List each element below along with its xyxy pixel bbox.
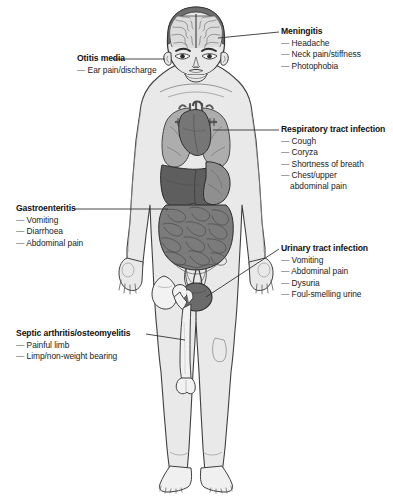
dash-glyph: — <box>281 255 289 265</box>
symptom-item: — Limp/non-weight bearing <box>16 351 131 362</box>
symptom-text: Vomiting <box>27 215 59 225</box>
dash-glyph: — <box>16 351 24 361</box>
label-title-respiratory: Respiratory tract infection <box>281 124 385 135</box>
symptom-item: — Neck pain/stiffness <box>281 49 361 60</box>
symptom-text: Headache <box>292 38 330 48</box>
symptom-list-otitis-media: — Ear pain/discharge <box>77 65 157 76</box>
right-foot <box>200 466 232 493</box>
label-septic-arthritis-osteomyelitis: Septic arthritis/osteomyelitis — Painful… <box>16 328 131 363</box>
dash-glyph: — <box>281 61 289 71</box>
symptom-item: — Cough <box>281 136 385 147</box>
symptom-item: — Headache <box>281 38 361 49</box>
symptom-item: — Coryza <box>281 147 385 158</box>
dash-glyph: — <box>281 147 289 157</box>
symptom-text: Foul-smelling urine <box>292 289 362 299</box>
dash-glyph: — <box>16 340 24 350</box>
symptom-item: — Abdominal pain <box>281 266 368 277</box>
right-hand <box>249 258 273 294</box>
right-ear <box>221 52 229 65</box>
symptom-list-meningitis: — Headache — Neck pain/stiffness — Photo… <box>281 38 361 72</box>
symptom-text: Abdominal pain <box>26 238 83 248</box>
dash-glyph: — <box>281 278 289 288</box>
symptom-item: — Ear pain/discharge <box>77 65 157 76</box>
dash-glyph: — <box>281 159 289 169</box>
symptom-item: — Dysuria <box>281 278 368 289</box>
dash-glyph: — <box>16 226 24 236</box>
label-respiratory-tract-infection: Respiratory tract infection — Cough — Co… <box>281 124 385 192</box>
dash-glyph: — <box>16 238 24 248</box>
symptom-item: — Photophobia <box>281 61 361 72</box>
dash-glyph: — <box>281 266 289 276</box>
dash-glyph: — <box>281 170 289 180</box>
diagram-canvas: Meningitis — Headache — Neck pain/stiffn… <box>0 0 393 501</box>
symptom-text: Abdominal pain <box>291 266 348 276</box>
symptom-continuation: abdominal pain <box>281 181 385 192</box>
symptom-text: Dysuria <box>292 278 320 288</box>
dash-glyph: — <box>281 38 289 48</box>
label-title-otitis-media: Otitis media <box>77 53 157 64</box>
symptom-item: — Vomiting <box>281 255 368 266</box>
label-title-septic-arthritis: Septic arthritis/osteomyelitis <box>16 328 131 339</box>
label-meningitis: Meningitis — Headache — Neck pain/stiffn… <box>281 26 361 72</box>
symptom-text: Chest/upper <box>292 170 337 180</box>
symptom-text: Vomiting <box>292 255 324 265</box>
head <box>164 7 229 75</box>
symptom-item: — Diarrhoea <box>16 226 83 237</box>
symptom-item: — Vomiting <box>16 215 83 226</box>
symptom-text: Neck pain/stiffness <box>292 49 361 59</box>
symptom-text: Painful limb <box>27 340 70 350</box>
symptom-item: — Shortness of breath <box>281 159 385 170</box>
label-title-urinary: Urinary tract infection <box>281 243 368 254</box>
symptom-list-respiratory: — Cough — Coryza — Shortness of breath —… <box>281 136 385 192</box>
symptom-text: Coryza <box>292 147 318 157</box>
dash-glyph: — <box>16 215 24 225</box>
symptom-item: — Abdominal pain <box>16 238 83 249</box>
dash-glyph: — <box>281 49 289 59</box>
symptom-list-urinary: — Vomiting — Abdominal pain — Dysuria — … <box>281 255 368 300</box>
symptom-list-gastroenteritis: — Vomiting — Diarrhoea — Abdominal pain <box>16 215 83 249</box>
label-title-meningitis: Meningitis <box>281 26 361 37</box>
label-title-gastroenteritis: Gastroenteritis <box>16 203 83 214</box>
dash-glyph: — <box>77 65 85 75</box>
left-hand <box>119 258 143 294</box>
symptom-list-septic-arthritis: — Painful limb — Limp/non-weight bearing <box>16 340 131 363</box>
symptom-text: Shortness of breath <box>292 159 364 169</box>
symptom-item: — Foul-smelling urine <box>281 289 368 300</box>
symptom-text: Cough <box>292 136 316 146</box>
symptom-text: Limp/non-weight bearing <box>27 351 118 361</box>
dash-glyph: — <box>281 289 289 299</box>
symptom-text: Ear pain/discharge <box>88 65 157 75</box>
symptom-text: Photophobia <box>292 61 339 71</box>
label-urinary-tract-infection: Urinary tract infection — Vomiting — Abd… <box>281 243 368 300</box>
label-gastroenteritis: Gastroenteritis — Vomiting — Diarrhoea —… <box>16 203 83 249</box>
left-foot <box>159 466 191 493</box>
label-otitis-media: Otitis media — Ear pain/discharge <box>77 53 157 76</box>
symptom-text: Diarrhoea <box>27 226 63 236</box>
leader-meningitis <box>218 32 279 38</box>
dash-glyph: — <box>281 136 289 146</box>
symptom-item: — Painful limb <box>16 340 131 351</box>
symptom-item: — Chest/upper <box>281 170 385 181</box>
